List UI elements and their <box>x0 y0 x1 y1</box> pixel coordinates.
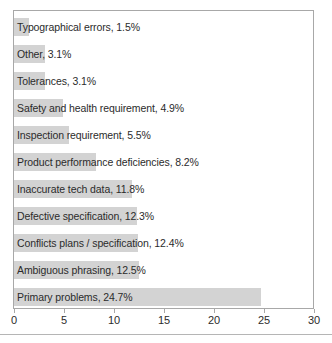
horizontal-bar-chart: Typographical errors, 1.5%Other, 3.1%Tol… <box>0 0 332 343</box>
x-axis-tick-label: 15 <box>144 314 184 326</box>
x-axis-tick-mark <box>264 309 265 313</box>
bars-area: Typographical errors, 1.5%Other, 3.1%Tol… <box>14 11 313 308</box>
x-axis-tick-mark <box>114 309 115 313</box>
x-axis-tick-label: 30 <box>294 314 332 326</box>
bar-row: Inaccurate tech data, 11.8% <box>14 180 313 198</box>
bar-data-label: Other, 3.1% <box>17 45 71 63</box>
x-axis-tick-mark <box>14 309 15 313</box>
bar-data-label: Defective specification, 12.3% <box>17 207 154 225</box>
x-axis-tick-label: 25 <box>244 314 284 326</box>
bar-row: Safety and health requirement, 4.9% <box>14 99 313 117</box>
bar-data-label: Conflicts plans / specification, 12.4% <box>17 234 184 252</box>
bar-data-label: Inspection requirement, 5.5% <box>17 126 151 144</box>
bar-data-label: Product performance deficiencies, 8.2% <box>17 153 199 171</box>
x-axis-tick-mark <box>314 309 315 313</box>
bar-data-label: Tolerances, 3.1% <box>17 72 96 90</box>
bar-data-label: Inaccurate tech data, 11.8% <box>17 180 144 198</box>
x-axis-tick-label: 10 <box>94 314 134 326</box>
x-axis-tick-label: 0 <box>0 314 34 326</box>
bar-row: Tolerances, 3.1% <box>14 72 313 90</box>
x-axis-tick-label: 20 <box>194 314 234 326</box>
x-axis-tick-label: 5 <box>44 314 84 326</box>
bar-row: Defective specification, 12.3% <box>14 207 313 225</box>
bar-data-label: Primary problems, 24.7% <box>17 288 133 306</box>
bar-data-label: Ambiguous phrasing, 12.5% <box>17 261 146 279</box>
bar-row: Ambiguous phrasing, 12.5% <box>14 261 313 279</box>
bar-data-label: Safety and health requirement, 4.9% <box>17 99 184 117</box>
bar-row: Other, 3.1% <box>14 45 313 63</box>
bar-row: Product performance deficiencies, 8.2% <box>14 153 313 171</box>
bar-data-label: Typographical errors, 1.5% <box>17 18 140 36</box>
x-axis-tick-mark <box>214 309 215 313</box>
bar-row: Typographical errors, 1.5% <box>14 18 313 36</box>
bottom-divider <box>0 334 332 335</box>
x-axis-tick-mark <box>164 309 165 313</box>
bar-row: Primary problems, 24.7% <box>14 288 313 306</box>
bar-row: Inspection requirement, 5.5% <box>14 126 313 144</box>
bar-row: Conflicts plans / specification, 12.4% <box>14 234 313 252</box>
x-axis-tick-mark <box>64 309 65 313</box>
